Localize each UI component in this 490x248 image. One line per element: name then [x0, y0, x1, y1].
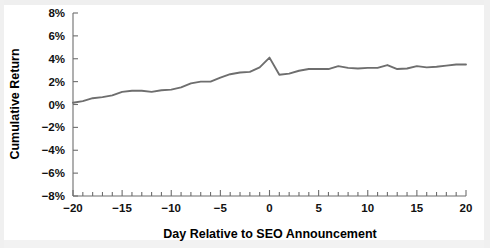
x-tick-label: −5 [214, 202, 228, 214]
y-tick-label: −4% [42, 144, 65, 156]
x-tick-label: −10 [161, 202, 181, 214]
y-tick-label: −8% [42, 190, 65, 202]
x-tick-label: −20 [63, 202, 83, 214]
y-axis-ticks [73, 13, 78, 196]
y-tick-label: 6% [48, 30, 65, 42]
y-tick-label: −6% [42, 167, 65, 179]
x-axis-ticks [73, 190, 466, 196]
x-tick-label: 15 [410, 202, 423, 214]
x-axis-tick-labels: −20−15−10−505101520 [63, 202, 472, 214]
x-axis-title: Day Relative to SEO Announcement [163, 227, 377, 241]
x-tick-label: 20 [460, 202, 473, 214]
y-tick-label: −2% [42, 121, 65, 133]
y-axis-tick-labels: −8%−6%−4%−2%0%2%4%6%8% [42, 7, 65, 202]
x-tick-label: 0 [266, 202, 272, 214]
y-axis-title: Cumulative Return [8, 48, 22, 159]
x-tick-label: 10 [361, 202, 374, 214]
x-tick-label: 5 [315, 202, 322, 214]
series-cumulative-return [73, 58, 466, 103]
y-tick-label: 2% [48, 76, 65, 88]
y-tick-label: 8% [48, 7, 65, 19]
x-tick-label: −15 [112, 202, 132, 214]
y-tick-label: 0% [48, 99, 65, 111]
y-tick-label: 4% [48, 53, 65, 65]
cumulative-return-line-chart: Cumulative Return Day Relative to SEO An… [0, 0, 490, 248]
chart-figure: Cumulative Return Day Relative to SEO An… [0, 0, 490, 248]
